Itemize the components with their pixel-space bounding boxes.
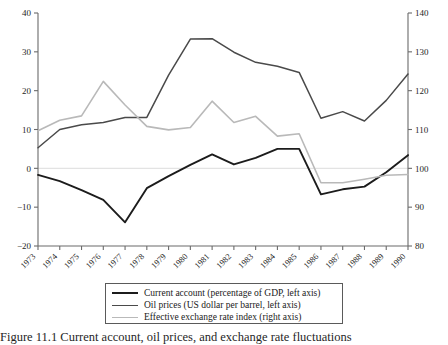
x-axis-tick-label: 1974	[40, 251, 60, 271]
legend-item[interactable]: Effective exchange rate index (right axi…	[112, 311, 342, 323]
x-axis-tick-label: 1983	[236, 251, 255, 270]
legend-label: Current account (percentage of GDP, left…	[144, 288, 320, 299]
right-axis-tick-label: 90	[415, 202, 425, 212]
x-axis-tick-label: 1985	[279, 251, 298, 270]
chart-legend: Current account (percentage of GDP, left…	[105, 283, 343, 324]
x-axis-tick-label: 1990	[388, 251, 407, 270]
x-axis-tick-label: 1989	[367, 251, 386, 270]
legend-swatch-line-icon	[112, 317, 138, 318]
left-axis-tick-label: 10	[22, 125, 32, 135]
x-axis-tick-label: 1987	[323, 251, 342, 270]
x-axis-tick-label: 1975	[62, 251, 81, 270]
figure-container: −20−100102030408090100110120130140197319…	[0, 0, 448, 345]
legend-item[interactable]: Current account (percentage of GDP, left…	[112, 287, 342, 299]
right-axis-tick-label: 80	[415, 241, 425, 251]
x-axis-tick-label: 1986	[301, 251, 320, 270]
x-axis-tick-label: 1981	[192, 251, 211, 270]
series-line-current-account	[38, 149, 408, 222]
right-axis-tick-label: 110	[415, 125, 429, 135]
legend-swatch-line-icon	[112, 305, 138, 306]
series-line-exchange-rate	[38, 81, 408, 182]
left-axis-tick-label: −20	[17, 241, 32, 251]
figure-caption: Figure 11.1 Current account, oil prices,…	[0, 330, 448, 345]
left-axis-tick-label: 0	[27, 164, 32, 174]
right-axis-tick-label: 140	[415, 8, 429, 18]
right-axis-tick-label: 100	[415, 164, 429, 174]
legend-item[interactable]: Oil prices (US dollar per barrel, left a…	[112, 299, 342, 311]
right-axis-tick-label: 130	[415, 47, 429, 57]
series-line-oil-prices	[38, 39, 408, 148]
right-axis-tick-label: 120	[415, 86, 429, 96]
left-axis-tick-label: 20	[22, 86, 32, 96]
x-axis-tick-label: 1979	[149, 251, 168, 270]
legend-label: Effective exchange rate index (right axi…	[144, 312, 301, 323]
line-chart: −20−100102030408090100110120130140197319…	[0, 0, 448, 283]
left-axis-tick-label: 40	[22, 8, 32, 18]
x-axis-tick-label: 1976	[84, 251, 103, 270]
left-axis-tick-label: 30	[22, 47, 32, 57]
x-axis-tick-label: 1984	[258, 251, 278, 271]
x-axis-tick-label: 1973	[18, 251, 37, 270]
legend-label: Oil prices (US dollar per barrel, left a…	[144, 300, 301, 311]
left-axis-tick-label: −10	[17, 202, 32, 212]
x-axis-tick-label: 1977	[105, 251, 124, 270]
x-axis-tick-label: 1978	[127, 251, 146, 270]
x-axis-tick-label: 1980	[171, 251, 190, 270]
x-axis-tick-label: 1982	[214, 251, 233, 270]
legend-swatch-line-icon	[112, 292, 138, 294]
x-axis-tick-label: 1988	[345, 251, 364, 270]
